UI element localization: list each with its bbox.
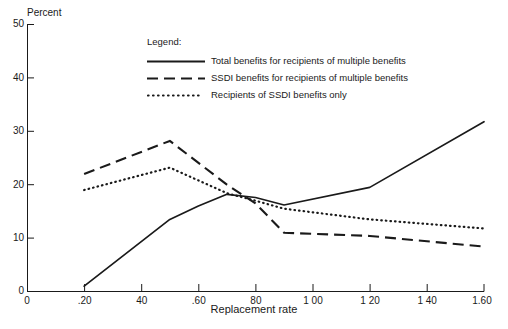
legend-label-ssdi-only: Recipients of SSDI benefits only — [211, 89, 347, 100]
y-tick-marks — [28, 25, 35, 239]
legend-swatch-solid-line-icon — [147, 55, 205, 67]
y-tick-label-10: 10 — [0, 233, 24, 243]
legend-title: Legend: — [147, 36, 408, 47]
legend: Legend: Total benefits for recipients of… — [147, 36, 408, 103]
legend-swatch-dotted-line-icon — [147, 89, 205, 101]
legend-swatch-dashed-line-icon — [147, 72, 205, 84]
line-chart: Percent 50 40 30 20 10 0 0 .20 40 .60 80… — [0, 0, 508, 329]
legend-label-total-benefits: Total benefits for recipients of multipl… — [211, 55, 406, 66]
legend-label-ssdi-multiple: SSDI benefits for recipients of multiple… — [211, 72, 408, 83]
y-tick-label-20: 20 — [0, 180, 24, 190]
y-axis-title: Percent — [27, 7, 61, 18]
x-tick-marks — [85, 284, 484, 292]
legend-item-total-benefits: Total benefits for recipients of multipl… — [147, 52, 408, 69]
series-line-ssdi-only — [84, 168, 484, 229]
y-tick-label-30: 30 — [0, 126, 24, 136]
legend-item-ssdi-only: Recipients of SSDI benefits only — [147, 86, 408, 103]
legend-item-ssdi-multiple: SSDI benefits for recipients of multiple… — [147, 69, 408, 86]
y-tick-label-40: 40 — [0, 73, 24, 83]
x-axis-title: Replacement rate — [0, 303, 508, 315]
y-tick-label-50: 50 — [0, 19, 24, 29]
series-line-total-benefits — [84, 122, 484, 286]
y-tick-label-0: 0 — [0, 286, 24, 296]
